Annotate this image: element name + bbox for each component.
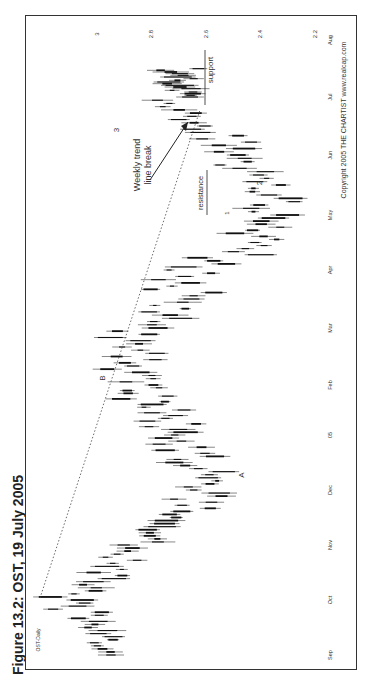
month-tick-label: Mar — [327, 323, 333, 333]
price-chart: 2.22.42.62.83SepOctNovDec05FebMarAprMayJ… — [0, 0, 366, 681]
month-tick-label: Feb — [327, 380, 333, 389]
resistance-label: resistance — [196, 176, 205, 210]
weekly-trend-label: Weekly trend — [132, 139, 142, 191]
annotations: supportresistanceWeekly trendline break3… — [40, 41, 348, 598]
weekly-trend-label-2: line break — [143, 145, 153, 185]
month-tick-label: Sep — [327, 650, 333, 660]
month-tick-label: Apr — [327, 266, 333, 275]
series-label: OST-Daily — [35, 628, 41, 651]
month-tick-label: Oct — [327, 595, 333, 604]
price-tick-label: 2.2 — [312, 29, 318, 38]
price-tick-label: 3 — [94, 32, 100, 36]
trendline — [40, 110, 200, 598]
month-tick-label: May — [327, 210, 333, 221]
label-2: 2 — [255, 180, 264, 185]
month-tick-label: Jul — [327, 93, 333, 100]
label-1: 1 — [224, 211, 230, 215]
price-bars — [33, 69, 307, 655]
month-tick-label: 05 — [327, 432, 333, 438]
copyright-text: Copyright 2005 THE CHARTIST www.realcap.… — [340, 41, 348, 198]
axes: 2.22.42.62.83SepOctNovDec05FebMarAprMayJ… — [35, 29, 333, 660]
price-tick-label: 2.6 — [203, 29, 209, 38]
month-tick-label: Nov — [327, 540, 333, 550]
label-B: B — [98, 375, 107, 380]
price-tick-label: 2.8 — [148, 29, 154, 38]
arrow-icon — [150, 122, 188, 180]
month-tick-label: Dec — [327, 485, 333, 495]
month-tick-label: Aug — [327, 35, 333, 45]
month-tick-label: Jun — [327, 151, 333, 160]
support-label: support — [206, 56, 215, 83]
price-tick-label: 2.4 — [257, 29, 263, 38]
label-3: 3 — [112, 127, 121, 132]
label-A: A — [237, 472, 246, 478]
